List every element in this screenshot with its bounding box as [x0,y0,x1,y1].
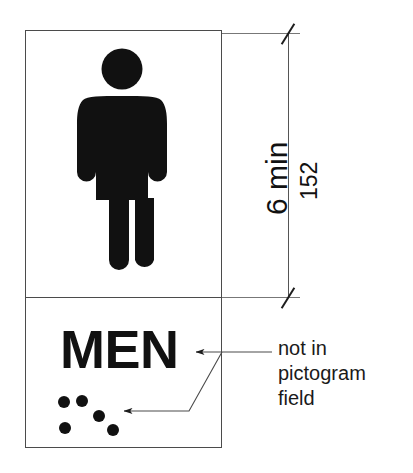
dimension-label-major: 6 min [262,142,292,215]
annotation-line-1: not in [278,336,366,361]
diagram-root: MEN 6 min 152 [0,0,413,473]
braille-dots-icon [55,390,135,440]
annotation-line-3: field [278,386,366,411]
annotation-line-2: pictogram [278,361,366,386]
standing-man-pictogram-icon [62,48,182,283]
annotation-not-in-pictogram-field: not in pictogram field [278,336,366,411]
pictogram-field-divider [25,297,222,298]
dimension-label-minor: 152 [298,162,321,200]
sign-text-label-men: MEN [60,322,179,376]
